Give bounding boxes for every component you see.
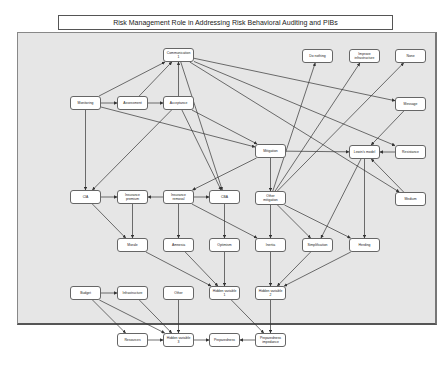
node-herding: Herding — [349, 238, 380, 252]
node-cia: CIA — [70, 190, 101, 204]
edge-message-to-lewin — [371, 111, 404, 145]
edge-communication-to-cba — [181, 62, 222, 190]
edge-communication-to-resistance — [194, 61, 395, 145]
node-improve-infra: Improve infrastructure — [349, 49, 380, 63]
edge-acceptance-to-cia — [92, 110, 171, 190]
node-do-nothing: Do nothing — [302, 49, 333, 63]
node-resistance: Resistance — [395, 145, 426, 159]
node-assessment: Assessment — [117, 96, 148, 110]
node-lewin: Lewin's model — [349, 145, 380, 159]
node-communication: Communication 1 — [163, 48, 194, 62]
node-budget: Budget — [70, 286, 101, 300]
edge-communication-to-message — [194, 58, 395, 100]
node-none: None — [395, 49, 426, 63]
edge-mitigation-to-ins_removal — [193, 158, 257, 190]
node-optimism: Optimism — [209, 238, 240, 252]
edge-communication-to-medium — [190, 62, 399, 192]
node-cba: CBA — [209, 190, 240, 204]
node-inertia: Inertia — [255, 238, 286, 252]
node-monitoring: Monitoring — [70, 96, 101, 110]
node-ins-removal: Insurance removal — [163, 190, 194, 204]
node-infrastructure: Infrastructure — [117, 286, 148, 300]
node-resources: Resources — [117, 333, 148, 347]
node-ins-premium: Insurance premium — [117, 190, 148, 204]
edge-monitoring-to-mitigation — [101, 107, 255, 147]
node-message: Message — [395, 97, 426, 111]
node-hidden2: Hidden variable 2 — [255, 286, 286, 300]
node-acceptance: Acceptance — [163, 96, 194, 110]
node-amnesia: Amnesia — [163, 238, 194, 252]
node-hidden1: Hidden variable 1 — [209, 286, 240, 300]
edge-medium-to-lewin — [371, 159, 403, 192]
node-other: Other — [163, 286, 194, 300]
node-hidden3: Hidden variable 3 — [163, 333, 194, 347]
edge-mitigation-to-lewin — [286, 151, 349, 152]
edge-other_mitigation-to-improve_infra — [275, 63, 360, 191]
edge-cia-to-morale — [92, 204, 125, 238]
node-prep-impedance: Preparedness impedance — [255, 333, 286, 347]
edge-other_mitigation-to-do_nothing — [273, 63, 315, 191]
node-medium: Medium — [395, 192, 426, 206]
node-other-mitigation: Other mitigation — [255, 191, 286, 205]
node-simplification: Simplification — [302, 238, 333, 252]
edge-other_mitigation-to-none — [277, 63, 403, 191]
node-morale: Morale — [117, 238, 148, 252]
edge-hidden1-to-prep_impedance — [231, 300, 263, 333]
node-preparedness: Preparedness — [209, 333, 240, 347]
node-mitigation: Mitigation — [255, 144, 286, 158]
